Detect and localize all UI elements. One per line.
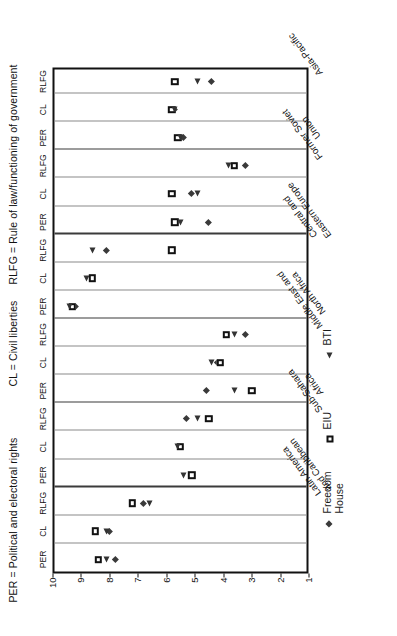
data-point-bti: [171, 106, 177, 112]
value-tick-label: 3: [246, 577, 257, 599]
data-point-eiu: [168, 246, 175, 253]
value-tick-label: 9: [75, 577, 86, 599]
group-separator: [54, 485, 306, 486]
value-tick-mark: [308, 573, 309, 577]
gridline: [54, 373, 306, 374]
value-tick-mark: [137, 573, 138, 577]
value-tick-label: 10: [47, 577, 58, 599]
gridline: [54, 542, 306, 543]
value-tick-label: 2: [274, 577, 285, 599]
data-point-eiu: [91, 527, 98, 534]
dimension-label-per: PER: [37, 297, 47, 315]
group-separator: [54, 232, 306, 233]
data-point-bti: [66, 303, 72, 309]
dimension-label-cl: CL: [37, 188, 47, 199]
data-point-bti: [174, 444, 180, 450]
legend-note-per: PER = Political and electoral rights: [6, 437, 18, 602]
value-tick-mark: [280, 573, 281, 577]
plot-area: [52, 67, 308, 573]
data-point-bti: [103, 528, 109, 534]
dimension-label-rlfg: RLFG: [37, 154, 47, 177]
value-tick-mark: [194, 573, 195, 577]
dimension-label-rlfg: RLFG: [37, 70, 47, 93]
data-point-eiu: [168, 190, 175, 197]
gridline: [54, 458, 306, 459]
group-separator: [54, 317, 306, 318]
gridline: [54, 345, 306, 346]
dimension-label-per: PER: [37, 466, 47, 484]
data-point-bti: [208, 359, 214, 365]
group-separator: [54, 401, 306, 402]
legend-note-rlfg: RLFG = Rule of law/functioning of govern…: [6, 64, 18, 284]
data-point-eiu: [94, 555, 101, 562]
dimension-label-rlfg: RLFG: [37, 491, 47, 514]
value-tick-mark: [223, 573, 224, 577]
dimension-label-cl: CL: [37, 441, 47, 452]
data-point-bti: [231, 387, 237, 393]
value-tick-label: 1: [303, 577, 314, 599]
value-tick-label: 5: [189, 577, 200, 599]
legend-label: EIU: [321, 411, 333, 429]
dimension-label-rlfg: RLFG: [37, 323, 47, 346]
data-point-bti: [103, 556, 109, 562]
value-tick-mark: [80, 573, 81, 577]
data-point-bti: [146, 500, 152, 506]
gridline: [54, 205, 306, 206]
dimension-label-cl: CL: [37, 104, 47, 115]
data-point-bti: [180, 472, 186, 478]
legend-label: Freedom House: [321, 471, 344, 513]
dimension-label-cl: CL: [37, 357, 47, 368]
triangle-marker-icon: [326, 352, 332, 358]
value-tick-label: 7: [132, 577, 143, 599]
data-point-eiu: [247, 387, 254, 394]
gridline: [54, 514, 306, 515]
data-point-eiu: [205, 415, 212, 422]
gridline: [54, 176, 306, 177]
data-point-bti: [177, 134, 183, 140]
value-tick-mark: [166, 573, 167, 577]
dimension-label-per: PER: [37, 550, 47, 568]
data-point-bti: [177, 219, 183, 225]
dimension-label-per: PER: [37, 381, 47, 399]
dimension-label-cl: CL: [37, 272, 47, 283]
dimension-label-rlfg: RLFG: [37, 407, 47, 430]
square-marker-icon: [326, 435, 333, 442]
rotated-figure: PER = Political and electoral rights CL …: [0, 0, 397, 636]
group-separator: [54, 148, 306, 149]
value-tick-mark: [52, 573, 53, 577]
gridline: [54, 92, 306, 93]
value-tick-label: 4: [217, 577, 228, 599]
data-point-bti: [89, 247, 95, 253]
data-point-eiu: [222, 330, 229, 337]
figure-canvas: PER = Political and electoral rights CL …: [0, 0, 397, 636]
dimension-label-per: PER: [37, 128, 47, 146]
data-point-eiu: [171, 77, 178, 84]
gridline: [54, 289, 306, 290]
diamond-marker-icon: [325, 520, 332, 527]
gridline: [54, 261, 306, 262]
value-tick-mark: [109, 573, 110, 577]
data-point-eiu: [188, 471, 195, 478]
data-point-bti: [231, 331, 237, 337]
data-point-bti: [83, 275, 89, 281]
gridline: [54, 429, 306, 430]
gridline: [54, 120, 306, 121]
value-tick-label: 8: [103, 577, 114, 599]
value-tick-mark: [251, 573, 252, 577]
data-point-bti: [194, 78, 200, 84]
data-point-eiu: [128, 499, 135, 506]
dimension-label-rlfg: RLFG: [37, 238, 47, 261]
legend-note-cl: CL = Civil liberties: [6, 300, 18, 386]
dimension-label-cl: CL: [37, 525, 47, 536]
legend-label: BTI: [321, 329, 333, 345]
data-point-eiu: [216, 358, 223, 365]
value-tick-label: 6: [160, 577, 171, 599]
data-point-bti: [225, 162, 231, 168]
data-point-bti: [194, 191, 200, 197]
data-point-bti: [194, 415, 200, 421]
dimension-label-per: PER: [37, 213, 47, 231]
